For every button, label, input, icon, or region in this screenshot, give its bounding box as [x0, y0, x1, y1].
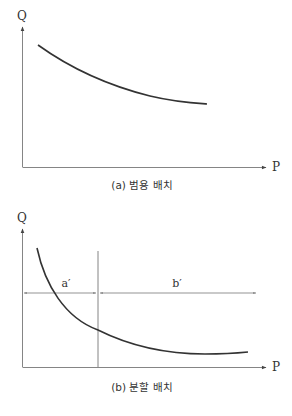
curve-a [38, 45, 207, 104]
curve-b [37, 248, 248, 354]
caption-a: (a) 범용 배치 [111, 179, 172, 191]
x-axis-label-b: P [272, 360, 280, 374]
region-b-prime-label: b′ [172, 277, 182, 290]
caption-b: (b) 분할 배치 [111, 381, 173, 393]
figure-a: Q P (a) 범용 배치 [17, 9, 280, 191]
region-a-prime-label: a′ [61, 277, 71, 290]
diagram-canvas: Q P (a) 범용 배치 Q P a′ b′ (b) 분할 배치 [0, 0, 292, 416]
y-axis-label-b: Q [17, 211, 27, 225]
y-axis-label-a: Q [17, 9, 27, 23]
x-axis-label-a: P [272, 160, 280, 174]
figure-b: Q P a′ b′ (b) 분할 배치 [17, 211, 280, 393]
